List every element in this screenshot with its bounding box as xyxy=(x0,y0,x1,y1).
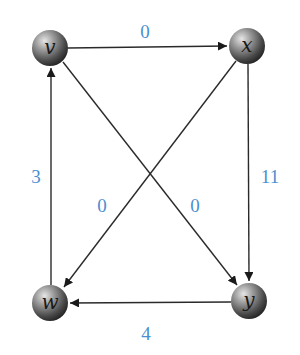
edge-y-w xyxy=(70,302,231,303)
weight-x-w: 0 xyxy=(97,195,107,216)
weight-x-y: 11 xyxy=(261,166,279,187)
node-label-y: y xyxy=(242,288,255,312)
graph-diagram: 0 11 4 3 0 0 v x w y xyxy=(0,0,300,355)
edges xyxy=(51,46,249,303)
weight-w-v: 3 xyxy=(31,166,41,187)
node-label-w: w xyxy=(41,290,58,314)
edge-v-x xyxy=(68,46,227,48)
node-label-v: v xyxy=(44,35,56,59)
node-label-x: x xyxy=(241,33,252,57)
node-v: v xyxy=(32,30,68,66)
edge-x-y xyxy=(248,64,249,281)
node-w: w xyxy=(32,285,68,321)
node-x: x xyxy=(229,28,265,64)
weight-v-x: 0 xyxy=(140,21,150,42)
node-y: y xyxy=(231,283,267,319)
edge-v-y xyxy=(63,62,237,285)
weight-v-y: 0 xyxy=(190,195,200,216)
weight-y-w: 4 xyxy=(141,323,151,344)
